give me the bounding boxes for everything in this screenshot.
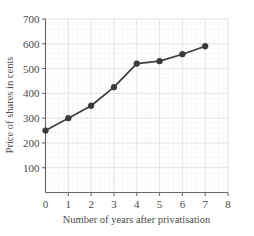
x-axis-title: Number of years after privatisation	[63, 214, 211, 225]
y-tick-label: 100	[23, 162, 40, 174]
x-tick-label: 7	[202, 198, 208, 210]
data-point	[202, 43, 208, 49]
chart-canvas: 100200300400500600700 012345678 Number o…	[0, 0, 254, 236]
share-price-line-chart: 100200300400500600700 012345678 Number o…	[0, 0, 254, 236]
y-axis-title: Price of shares in cents	[4, 57, 15, 154]
x-tick-label: 1	[66, 198, 72, 210]
y-tick-label: 200	[23, 137, 40, 149]
y-tick-label: 300	[23, 112, 40, 124]
x-tick-label: 8	[225, 198, 231, 210]
y-tick-label: 400	[23, 87, 40, 99]
x-tick-label: 4	[134, 198, 140, 210]
y-tick-label: 600	[23, 38, 40, 50]
x-tick-label: 3	[111, 198, 117, 210]
data-point	[179, 51, 185, 57]
data-point	[88, 103, 94, 109]
x-tick-label: 0	[43, 198, 49, 210]
data-point	[43, 128, 49, 134]
data-point	[65, 115, 71, 121]
y-tick-label: 700	[23, 13, 40, 25]
data-point	[134, 61, 140, 67]
data-point	[111, 84, 117, 90]
x-tick-label: 6	[180, 198, 186, 210]
data-point	[157, 58, 163, 64]
y-tick-label: 500	[23, 63, 40, 75]
x-tick-label: 5	[157, 198, 163, 210]
x-tick-label: 2	[88, 198, 94, 210]
x-axis-tick-labels: 012345678	[43, 198, 232, 210]
